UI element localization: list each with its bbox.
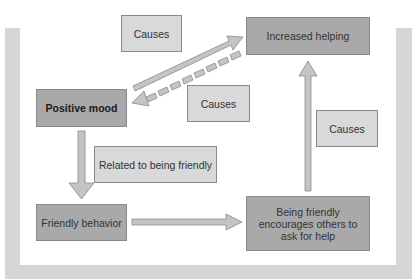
label-causes-middle-text: Causes — [201, 98, 237, 110]
node-being-friendly-text: Being friendly encourages others to ask … — [257, 206, 359, 242]
node-friendly-behavior: Friendly behavior — [36, 204, 127, 241]
node-being-friendly: Being friendly encourages others to ask … — [246, 196, 370, 251]
arrow-being-to-helping — [299, 61, 317, 191]
arrow-mood-to-friendly — [69, 131, 94, 199]
label-causes-right-text: Causes — [329, 123, 365, 135]
label-causes-right: Causes — [316, 110, 378, 147]
label-related-text: Related to being friendly — [99, 159, 212, 171]
node-increased-helping: Increased helping — [246, 17, 370, 55]
label-related-to-being-friendly: Related to being friendly — [94, 146, 217, 183]
label-causes-top: Causes — [121, 15, 182, 52]
node-positive-mood-text: Positive mood — [46, 102, 118, 114]
node-increased-helping-text: Increased helping — [267, 30, 350, 42]
label-causes-middle: Causes — [187, 85, 250, 122]
arrow-friendly-to-being — [132, 214, 242, 230]
node-friendly-behavior-text: Friendly behavior — [41, 217, 122, 229]
node-positive-mood: Positive mood — [36, 89, 127, 127]
label-causes-top-text: Causes — [134, 28, 170, 40]
